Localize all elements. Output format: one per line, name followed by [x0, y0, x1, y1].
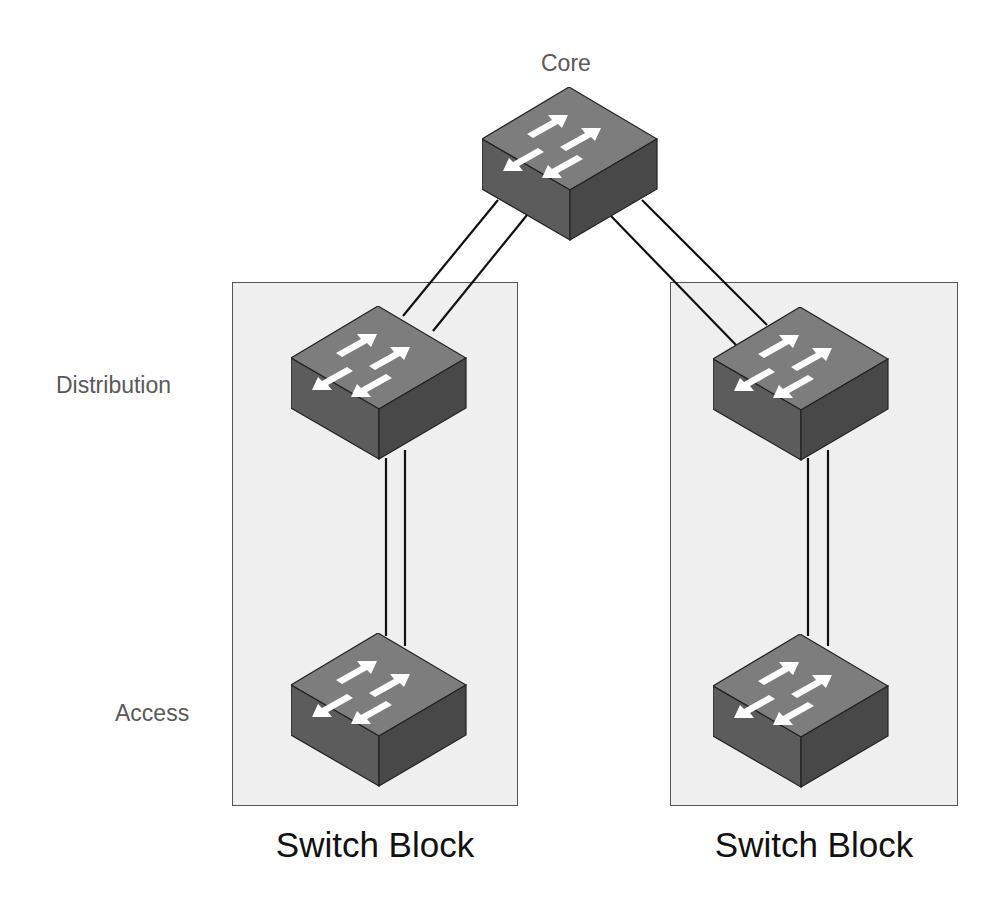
distribution-switch-right	[713, 307, 889, 462]
distribution-switch-left	[291, 306, 467, 461]
tier-label-core: Core	[541, 50, 591, 77]
tier-label-access: Access	[115, 700, 189, 727]
core-switch	[482, 87, 658, 242]
switch-icon	[713, 634, 888, 787]
switch-icon	[713, 307, 888, 460]
switch-icon	[291, 306, 466, 459]
switch-block-left-title: Switch Block	[232, 825, 518, 865]
tier-label-distribution: Distribution	[56, 372, 171, 399]
switch-block-right-title: Switch Block	[670, 825, 958, 865]
switch-icon	[291, 633, 466, 786]
switch-icon	[482, 87, 657, 240]
access-switch-right	[713, 634, 889, 789]
access-switch-left	[291, 633, 467, 788]
